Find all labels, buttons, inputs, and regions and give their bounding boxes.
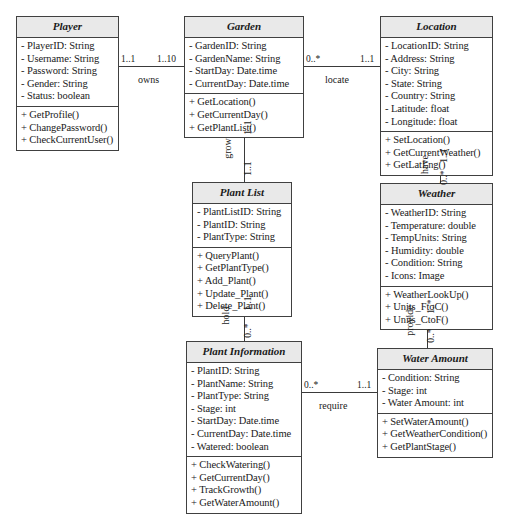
multiplicity-provide-source: 1..*: [426, 297, 437, 317]
multiplicity-hold-target: 0..*: [243, 321, 254, 341]
attribute: - State: String: [385, 78, 491, 91]
class-attributes-player: - PlayerID: String - Username: String - …: [17, 38, 118, 106]
attribute: - StartDay: Date.time: [189, 65, 302, 78]
attribute: - Username: String: [21, 53, 117, 66]
operation: + Units_FtoC(): [385, 301, 491, 314]
class-box-location[interactable]: Location - LocationID: String - Address:…: [380, 16, 493, 176]
operation: + CheckWatering(): [191, 459, 300, 472]
class-box-plant-information[interactable]: Plant Information - PlantID: String - Pl…: [186, 341, 302, 514]
attribute: - Humidity: double: [385, 245, 491, 258]
attribute: - StartDay: Date.time: [191, 415, 300, 428]
class-operations-weather: + WeatherLookUp() + Units_FtoC() + Units…: [381, 286, 492, 330]
multiplicity-hold-source: 1..1: [243, 294, 254, 314]
attribute: - Address: String: [385, 53, 491, 66]
operation: + GetWaterAmount(): [191, 497, 300, 510]
association-label-grow: grow: [222, 137, 233, 161]
class-name-plant-information: Plant Information: [187, 342, 301, 363]
association-label-owns: owns: [138, 74, 159, 85]
multiplicity-locate-source: 0..*: [306, 54, 320, 65]
multiplicity-owns-target: 1..10: [157, 54, 176, 65]
attribute: - Watered: boolean: [191, 441, 300, 454]
class-attributes-water-amount: - Condition: String - Stage: int - Water…: [378, 370, 492, 413]
class-box-weather[interactable]: Weather - WeatherID: String - Temperatur…: [380, 183, 493, 330]
attribute: - GardenName: String: [189, 53, 302, 66]
attribute: - TempUnits: String: [385, 232, 491, 245]
multiplicity-have-source: 1..1: [439, 146, 450, 166]
association-line-require: [302, 392, 377, 393]
class-operations-location: + SetLocation() + GetCurrentWeather() + …: [381, 131, 492, 175]
attribute: - Stage: int: [382, 385, 491, 398]
multiplicity-have-target: 0..*: [439, 168, 450, 188]
class-operations-player: + GetProfile() + ChangePassword() + Chec…: [17, 106, 118, 150]
operation: + GetProfile(): [21, 109, 117, 122]
class-operations-plant-information: + CheckWatering() + GetCurrentDay() + Tr…: [187, 456, 301, 512]
attribute: - Latitude: float: [385, 103, 491, 116]
attribute: - PlantName: String: [191, 378, 300, 391]
class-name-garden: Garden: [185, 17, 303, 38]
multiplicity-grow-source: 1..1: [243, 118, 254, 138]
attribute: - PlayerID: String: [21, 40, 117, 53]
attribute: - LocationID: String: [385, 40, 491, 53]
attribute: - PlantID: String: [197, 219, 290, 232]
attribute: - Stage: int: [191, 403, 300, 416]
attribute: - PlantListID: String: [197, 206, 290, 219]
association-label-locate: locate: [325, 74, 349, 85]
attribute: - Status: boolean: [21, 90, 117, 103]
attribute: - Condition: String: [385, 257, 491, 270]
class-name-weather: Weather: [381, 184, 492, 205]
class-attributes-plant-information: - PlantID: String - PlantName: String - …: [187, 363, 301, 456]
class-attributes-weather: - WeatherID: String - Temperature: doubl…: [381, 205, 492, 286]
class-box-player[interactable]: Player - PlayerID: String - Username: St…: [16, 16, 119, 151]
operation: + Add_Plant(): [197, 275, 290, 288]
attribute: - CurrentDay: Date.time: [189, 78, 302, 91]
operation: + GetPlantStage(): [382, 441, 491, 454]
operation: + GetLocation(): [189, 96, 302, 109]
attribute: - GardenID: String: [189, 40, 302, 53]
association-label-require: require: [319, 400, 347, 411]
attribute: - Password: String: [21, 65, 117, 78]
operation: + TrackGrowth(): [191, 484, 300, 497]
association-label-provide: provide: [404, 304, 415, 338]
association-label-have: have: [419, 152, 430, 178]
operation: + ChangePassword(): [21, 122, 117, 135]
attribute: - PlantType: String: [191, 390, 300, 403]
association-line-owns: [119, 66, 184, 67]
attribute: - Icons: Image: [385, 270, 491, 283]
attribute: - WeatherID: String: [385, 207, 491, 220]
operation: + Units_CtoF(): [385, 314, 491, 327]
attribute: - Gender: String: [21, 78, 117, 91]
attribute: - Longitude: float: [385, 116, 491, 129]
attribute: - Condition: String: [382, 372, 491, 385]
operation: + WeatherLookUp(): [385, 289, 491, 302]
class-attributes-location: - LocationID: String - Address: String -…: [381, 38, 492, 131]
multiplicity-grow-target: 1..1: [243, 159, 254, 179]
association-line-locate: [304, 66, 380, 67]
multiplicity-owns-source: 1..1: [121, 54, 135, 65]
class-operations-water-amount: + SetWaterAmount() + GetWeatherCondition…: [378, 413, 492, 457]
class-name-plant-list: Plant List: [193, 183, 291, 204]
attribute: - CurrentDay: Date.time: [191, 428, 300, 441]
attribute: - City: String: [385, 65, 491, 78]
multiplicity-locate-target: 1..1: [360, 54, 374, 65]
operation: + GetWeatherCondition(): [382, 428, 491, 441]
multiplicity-provide-target: 0..*: [426, 326, 437, 346]
class-name-water-amount: Water Amount: [378, 349, 492, 370]
class-name-player: Player: [17, 17, 118, 38]
operation: + GetPlantType(): [197, 262, 290, 275]
class-attributes-plant-list: - PlantListID: String - PlantID: String …: [193, 204, 291, 247]
multiplicity-require-source: 0..*: [304, 380, 318, 391]
class-name-location: Location: [381, 17, 492, 38]
operation: + QueryPlant(): [197, 250, 290, 263]
attribute: - PlantType: String: [197, 231, 290, 244]
attribute: - Temperature: double: [385, 220, 491, 233]
attribute: - Water Amount: int: [382, 397, 491, 410]
class-attributes-garden: - GardenID: String - GardenName: String …: [185, 38, 303, 93]
operation: + GetCurrentDay(): [191, 472, 300, 485]
association-label-hold: hold: [220, 304, 231, 328]
class-box-water-amount[interactable]: Water Amount - Condition: String - Stage…: [377, 348, 493, 458]
multiplicity-require-target: 1..1: [357, 380, 371, 391]
attribute: - PlantID: String: [191, 365, 300, 378]
operation: + SetWaterAmount(): [382, 416, 491, 429]
operation: + CheckCurrentUser(): [21, 134, 117, 147]
